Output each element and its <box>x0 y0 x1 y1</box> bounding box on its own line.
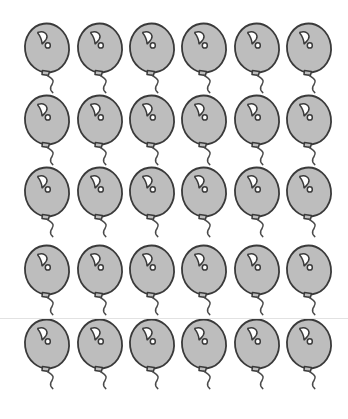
balloon-string <box>47 75 53 92</box>
balloon-icon <box>22 22 74 94</box>
balloon-item <box>179 244 231 316</box>
balloon-item <box>284 318 336 390</box>
balloon-icon <box>75 22 127 94</box>
balloon-icon <box>22 166 74 238</box>
balloon-icon <box>232 94 284 166</box>
balloon-knot <box>252 70 259 75</box>
balloon-icon <box>22 94 74 166</box>
balloon-grid <box>0 0 348 419</box>
balloon-item <box>127 318 179 390</box>
balloon-item <box>232 166 284 238</box>
balloon-knot <box>95 70 102 75</box>
balloon-item <box>22 244 74 316</box>
balloon-string <box>309 75 315 92</box>
balloon-string <box>152 297 158 314</box>
balloon-glint <box>150 115 155 120</box>
horizontal-rule <box>0 318 348 319</box>
balloon-glint <box>98 265 103 270</box>
balloon-knot <box>42 292 49 297</box>
balloon-knot <box>147 292 154 297</box>
balloon-icon <box>75 244 127 316</box>
balloon-item <box>284 94 336 166</box>
balloon-knot <box>42 142 49 147</box>
balloon-item <box>179 22 231 94</box>
balloon-item <box>284 22 336 94</box>
balloon-glint <box>202 265 207 270</box>
balloon-glint <box>255 43 260 48</box>
balloon-glint <box>150 265 155 270</box>
balloon-item <box>127 22 179 94</box>
balloon-icon <box>284 166 336 238</box>
balloon-glint <box>255 115 260 120</box>
balloon-knot <box>42 70 49 75</box>
balloon-knot <box>304 70 311 75</box>
balloon-item <box>75 94 127 166</box>
balloon-item <box>179 94 231 166</box>
balloon-string <box>309 297 315 314</box>
balloon-icon <box>179 166 231 238</box>
balloon-item <box>284 244 336 316</box>
balloon-glint <box>202 115 207 120</box>
balloon-knot <box>199 366 206 371</box>
balloon-icon <box>179 244 231 316</box>
balloon-glint <box>307 339 312 344</box>
balloon-knot <box>95 214 102 219</box>
balloon-item <box>127 244 179 316</box>
balloon-icon <box>127 318 179 390</box>
balloon-string <box>257 297 263 314</box>
balloon-glint <box>307 265 312 270</box>
balloon-knot <box>304 366 311 371</box>
balloon-item <box>22 166 74 238</box>
balloon-item <box>75 318 127 390</box>
balloon-knot <box>199 214 206 219</box>
balloon-string <box>152 75 158 92</box>
balloon-glint <box>307 187 312 192</box>
balloon-glint <box>150 43 155 48</box>
balloon-item <box>22 22 74 94</box>
balloon-knot <box>199 142 206 147</box>
balloon-glint <box>307 115 312 120</box>
balloon-knot <box>42 214 49 219</box>
balloon-knot <box>252 366 259 371</box>
balloon-string <box>204 297 210 314</box>
balloon-string <box>100 147 106 164</box>
balloon-knot <box>199 70 206 75</box>
balloon-string <box>100 75 106 92</box>
balloon-sheet: Balloon counting sheet <box>0 0 348 419</box>
balloon-string <box>257 75 263 92</box>
balloon-glint <box>255 339 260 344</box>
balloon-glint <box>202 187 207 192</box>
balloon-item <box>232 244 284 316</box>
balloon-icon <box>284 318 336 390</box>
balloon-string <box>257 371 263 388</box>
balloon-icon <box>179 318 231 390</box>
balloon-item <box>179 166 231 238</box>
balloon-string <box>204 219 210 236</box>
balloon-item <box>127 166 179 238</box>
balloon-icon <box>284 94 336 166</box>
balloon-item <box>22 94 74 166</box>
balloon-string <box>47 297 53 314</box>
balloon-string <box>257 147 263 164</box>
balloon-item <box>75 22 127 94</box>
balloon-icon <box>75 94 127 166</box>
balloon-knot <box>252 142 259 147</box>
balloon-glint <box>98 115 103 120</box>
balloon-string <box>152 371 158 388</box>
balloon-knot <box>147 214 154 219</box>
balloon-knot <box>95 142 102 147</box>
balloon-knot <box>304 142 311 147</box>
balloon-glint <box>45 115 50 120</box>
balloon-glint <box>307 43 312 48</box>
balloon-knot <box>304 292 311 297</box>
balloon-knot <box>147 70 154 75</box>
balloon-glint <box>202 339 207 344</box>
balloon-knot <box>304 214 311 219</box>
balloon-icon <box>232 244 284 316</box>
balloon-glint <box>150 339 155 344</box>
balloon-icon <box>232 22 284 94</box>
balloon-glint <box>98 339 103 344</box>
balloon-string <box>152 147 158 164</box>
balloon-string <box>100 371 106 388</box>
balloon-glint <box>150 187 155 192</box>
